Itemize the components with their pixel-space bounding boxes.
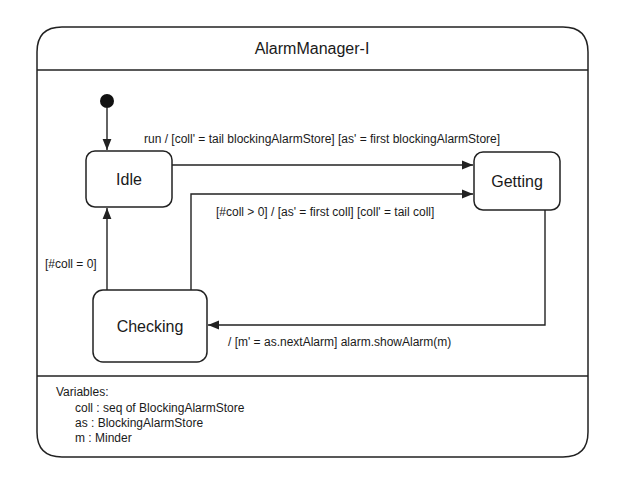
state-idle-label: Idle — [116, 171, 142, 188]
variable-item: as : BlockingAlarmStore — [75, 416, 203, 430]
diagram-title: AlarmManager-I — [255, 40, 370, 57]
state-checking-label: Checking — [117, 318, 184, 335]
state-idle: Idle — [86, 151, 172, 207]
transition-label-getting-checking: / [m' = as.nextAlarm] alarm.showAlarm(m) — [228, 335, 451, 349]
transition-label-checking-getting: [#coll > 0] / [as' = first coll] [coll' … — [216, 205, 434, 219]
state-getting: Getting — [474, 152, 560, 210]
transition-label-idle-getting: run / [coll' = tail blockingAlarmStore] … — [144, 132, 500, 146]
variable-item: coll : seq of BlockingAlarmStore — [75, 401, 245, 415]
outer-frame — [37, 27, 588, 457]
transition-label-checking-idle: [#coll = 0] — [45, 257, 97, 271]
state-diagram: AlarmManager-I run / [coll' = tail block… — [0, 0, 618, 478]
variables-heading: Variables: — [56, 385, 108, 399]
initial-state-dot — [100, 94, 114, 108]
state-checking: Checking — [93, 290, 207, 362]
variable-item: m : Minder — [75, 431, 132, 445]
state-getting-label: Getting — [491, 173, 543, 190]
